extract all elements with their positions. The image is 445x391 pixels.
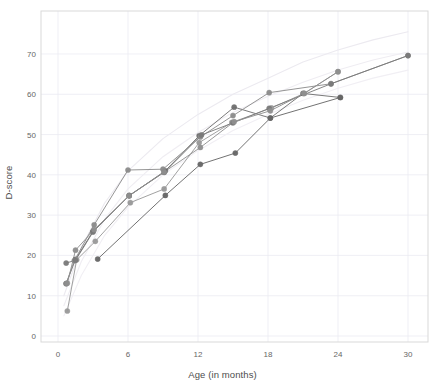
y-tick-label: 60 — [14, 90, 36, 99]
data-point-marker — [162, 169, 167, 174]
data-point-marker — [338, 95, 343, 100]
data-point-marker — [197, 140, 202, 145]
data-point-marker — [199, 132, 204, 137]
data-point-marker — [198, 162, 203, 167]
data-point-marker — [73, 258, 78, 263]
data-point-marker — [233, 150, 238, 155]
data-point-marker — [73, 248, 78, 253]
y-tick-label: 10 — [14, 291, 36, 300]
data-point-marker — [92, 222, 97, 227]
data-point-marker — [65, 308, 70, 313]
data-point-marker — [232, 119, 237, 124]
y-tick-label: 40 — [14, 170, 36, 179]
data-point-marker — [232, 105, 237, 110]
y-tick-label: 50 — [14, 130, 36, 139]
data-point-marker — [163, 193, 168, 198]
data-point-marker — [198, 145, 203, 150]
plot-canvas — [0, 0, 445, 391]
x-tick-label: 0 — [56, 350, 60, 359]
y-tick-label: 0 — [14, 332, 36, 341]
chart-figure: 0102030405060700612182430 Age (in months… — [0, 0, 445, 391]
data-point-marker — [230, 113, 235, 118]
data-point-marker — [267, 90, 272, 95]
y-axis-title: D-score — [3, 153, 14, 213]
data-point-marker — [335, 69, 340, 74]
data-point-marker — [268, 108, 273, 113]
y-tick-label: 70 — [14, 50, 36, 59]
data-point-marker — [302, 91, 307, 96]
data-point-marker — [92, 227, 97, 232]
data-point-marker — [65, 281, 70, 286]
x-axis-title: Age (in months) — [0, 369, 445, 380]
x-tick-label: 24 — [334, 350, 343, 359]
x-tick-label: 30 — [404, 350, 413, 359]
data-point-marker — [125, 167, 130, 172]
x-tick-label: 18 — [264, 350, 273, 359]
data-point-marker — [268, 115, 273, 120]
data-point-marker — [127, 193, 132, 198]
y-tick-label: 30 — [14, 211, 36, 220]
data-point-marker — [328, 81, 333, 86]
data-point-marker — [162, 186, 167, 191]
y-tick-label: 20 — [14, 251, 36, 260]
data-point-marker — [128, 200, 133, 205]
data-point-marker — [93, 239, 98, 244]
data-point-marker — [405, 53, 410, 58]
data-point-marker — [95, 256, 100, 261]
data-point-marker — [64, 260, 69, 265]
x-tick-label: 6 — [126, 350, 130, 359]
x-tick-label: 12 — [194, 350, 203, 359]
